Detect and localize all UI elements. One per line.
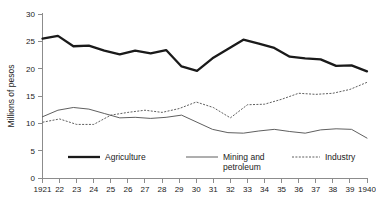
x-tick-label-32: 32 bbox=[226, 185, 235, 194]
x-tick-label-37: 37 bbox=[311, 185, 320, 194]
legend-label-industry: Industry bbox=[325, 152, 356, 162]
chart-canvas: 0 5 10 15 20 25 30 Millions of pesos 192… bbox=[0, 0, 376, 206]
legend-label-mining-and-petroleum-line2: petroleum bbox=[223, 162, 261, 172]
y-tick-label-15: 15 bbox=[26, 92, 35, 101]
legend: Agriculture Mining and petroleum Industr… bbox=[68, 152, 356, 172]
x-tick-label-39: 39 bbox=[345, 185, 354, 194]
x-tick-label-25: 25 bbox=[106, 185, 115, 194]
series-line-agriculture bbox=[43, 36, 368, 72]
x-tick-label-1921: 1921 bbox=[34, 185, 52, 194]
x-tick-label-33: 33 bbox=[243, 185, 252, 194]
x-tick-label-34: 34 bbox=[260, 185, 269, 194]
x-tick-label-22: 22 bbox=[55, 185, 64, 194]
x-tick-label-36: 36 bbox=[294, 185, 303, 194]
series-group bbox=[43, 36, 368, 138]
y-tick-label-5: 5 bbox=[31, 147, 36, 156]
legend-label-agriculture: Agriculture bbox=[105, 152, 146, 162]
series-line-mining-and-petroleum bbox=[43, 107, 368, 138]
x-tick-label-31: 31 bbox=[209, 185, 218, 194]
legend-label-mining-and-petroleum: Mining and bbox=[223, 152, 265, 162]
y-axis: 0 5 10 15 20 25 30 Millions of pesos bbox=[6, 10, 43, 183]
x-tick-label-27: 27 bbox=[141, 185, 150, 194]
x-tick-label-30: 30 bbox=[192, 185, 201, 194]
x-axis-tick-labels: 1921222324252627282930313233343536373839… bbox=[34, 185, 376, 194]
x-tick-label-29: 29 bbox=[175, 185, 184, 194]
x-tick-label-28: 28 bbox=[158, 185, 167, 194]
line-chart: 0 5 10 15 20 25 30 Millions of pesos 192… bbox=[0, 0, 376, 206]
y-tick-label-0: 0 bbox=[31, 174, 36, 183]
x-axis-ticks bbox=[43, 179, 368, 184]
y-axis-title: Millions of pesos bbox=[6, 65, 16, 128]
x-tick-label-26: 26 bbox=[123, 185, 132, 194]
x-tick-label-38: 38 bbox=[328, 185, 337, 194]
y-tick-label-10: 10 bbox=[26, 119, 35, 128]
y-tick-label-25: 25 bbox=[26, 37, 35, 46]
series-line-industry bbox=[43, 82, 368, 124]
x-tick-label-23: 23 bbox=[72, 185, 81, 194]
x-tick-label-24: 24 bbox=[89, 185, 98, 194]
x-tick-label-35: 35 bbox=[277, 185, 286, 194]
y-tick-label-30: 30 bbox=[26, 10, 35, 19]
x-axis: 1921222324252627282930313233343536373839… bbox=[34, 179, 376, 195]
y-tick-label-20: 20 bbox=[26, 65, 35, 74]
x-tick-label-1940: 1940 bbox=[358, 185, 376, 194]
